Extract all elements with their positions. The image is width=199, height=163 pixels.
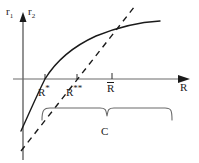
figure-canvas: r1 r2 R R* R** R C [0, 0, 199, 163]
y-axis-label-r1: r1 [6, 6, 13, 20]
tick-label-r-star-marks: * [45, 83, 50, 93]
tick-label-r-star-star-marks: ** [73, 83, 82, 93]
y-axis-label-r2: r2 [28, 6, 35, 20]
tick-label-r-bar-overline: R [107, 82, 114, 94]
tick-label-r-star: R* [38, 84, 50, 98]
brace-c [42, 108, 172, 120]
tick-label-r-bar: R [107, 82, 114, 94]
y-axis-label-r2-subscript: 2 [32, 12, 36, 20]
tick-label-r-star-star: R** [66, 84, 82, 98]
y-axis-arrow-icon [20, 12, 27, 22]
y-axis-label-r1-subscript: 1 [10, 12, 14, 20]
brace-label-c: C [101, 126, 108, 137]
figure-svg [0, 0, 199, 163]
x-axis-label-R: R [180, 82, 187, 93]
